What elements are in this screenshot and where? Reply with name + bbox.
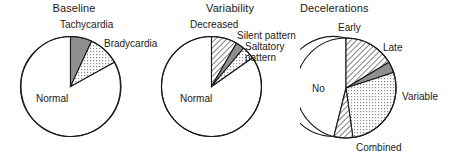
chart-decelerations-pie [300, 0, 456, 159]
chart-decelerations: Decelerations [300, 0, 452, 159]
label-variability-normal: Normal [180, 93, 212, 104]
label-variability-decreased: Decreased [190, 19, 238, 30]
label-variability-saltatory: Saltatory pattern [245, 41, 299, 63]
label-decelerations-early: Early [338, 22, 361, 33]
label-baseline-normal: Normal [36, 93, 68, 104]
label-decelerations-late: Late [383, 42, 402, 53]
label-decelerations-combined: Combined [356, 142, 402, 153]
label-variability-silent: Silent pattern [237, 30, 296, 41]
label-decelerations-variable: Variable [402, 91, 438, 102]
pie-chart-figure: Baseline Normal Tachycardia Bradycardia … [0, 0, 456, 159]
label-decelerations-no: No [312, 83, 325, 94]
label-baseline-bradycardia: Bradycardia [104, 38, 157, 49]
label-baseline-tachycardia: Tachycardia [60, 19, 113, 30]
chart-variability: Variability Normal Decr [152, 0, 304, 159]
chart-baseline: Baseline Normal Tachycardia Bradycardia [0, 0, 152, 159]
